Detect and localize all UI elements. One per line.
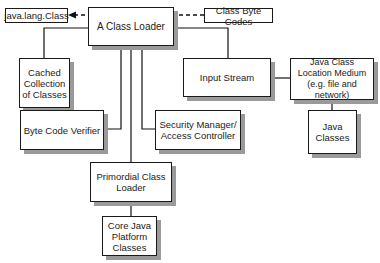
core-platform-node: Core Java Platform Classes (102, 216, 157, 256)
node-label: Java Classes (316, 121, 350, 143)
node-label: Class Byte Codes (205, 5, 272, 27)
node-label: Primordial Class Loader (96, 171, 165, 193)
location-medium-node: Java Class Location Medium (e.g. file an… (290, 58, 374, 100)
class-loader-node: A Class Loader (88, 7, 174, 46)
node-label: Java Class Location Medium (e.g. file an… (291, 57, 373, 101)
class-byte-codes-node: Class Byte Codes (204, 8, 273, 23)
input-stream-node: Input Stream (183, 58, 271, 97)
node-label: Core Java Platform Classes (108, 220, 151, 253)
node-label: java.lang.Class (4, 10, 68, 21)
java-lang-class-node: java.lang.Class (5, 8, 68, 23)
node-label: A Class Loader (97, 21, 165, 32)
node-label: Security Manager/ Access Controller (159, 119, 236, 141)
primordial-loader-node: Primordial Class Loader (90, 162, 172, 202)
byte-code-verifier-node: Byte Code Verifier (20, 110, 104, 150)
security-manager-node: Security Manager/ Access Controller (155, 110, 241, 150)
arrow-head-icon (68, 12, 76, 19)
node-label: Input Stream (200, 72, 254, 83)
node-label: Cached Collection of Classes (22, 67, 66, 100)
cached-collection-node: Cached Collection of Classes (19, 58, 70, 108)
node-label: Byte Code Verifier (24, 125, 101, 136)
java-classes-node: Java Classes (308, 110, 357, 154)
